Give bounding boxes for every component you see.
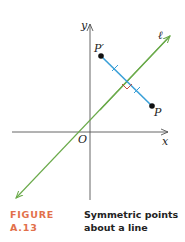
y-axis-label: y [80, 19, 88, 32]
line-l-label: ℓ [158, 29, 163, 42]
point-p-prime-label: P′ [93, 42, 104, 55]
symmetric-points-diagram: y x O ℓ P′ P [0, 0, 185, 210]
origin-label: O [78, 133, 87, 146]
point-p-label: P [153, 106, 162, 119]
x-axis-label: x [162, 135, 169, 148]
figure-caption: FIGURE A.13Symmetric points about a line [10, 208, 185, 234]
caption-text: Symmetric points about a line [84, 208, 180, 234]
caption-number: FIGURE A.13 [10, 208, 84, 234]
